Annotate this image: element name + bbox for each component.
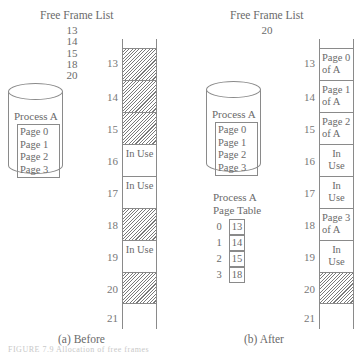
- process-page: Page 1: [20, 139, 57, 152]
- frame-number: 18: [295, 219, 315, 231]
- free-frame-entry: 14: [62, 36, 82, 47]
- frame-number: 13: [98, 57, 118, 69]
- page-table-frame: 15: [229, 251, 245, 267]
- frame-number: 19: [98, 251, 118, 263]
- process-name: Process A: [14, 110, 58, 122]
- page-table-index: 1: [214, 237, 224, 248]
- page-table-frame: 13: [229, 219, 245, 235]
- frame-number: 20: [98, 283, 118, 295]
- page-table-title-line2: Page Table: [213, 204, 261, 216]
- frame-number: 16: [98, 155, 118, 167]
- after-free-frame-list: 20: [257, 25, 277, 36]
- frame-number: 14: [98, 91, 118, 103]
- page-table-frame: 18: [229, 267, 245, 283]
- frame-14-free: [123, 80, 156, 112]
- process-pages: Page 0 Page 1 Page 2 Page 3: [215, 122, 258, 176]
- after-main-memory: Page 0of A Page 1of A Page 2of A InUse I…: [319, 39, 354, 329]
- frame-number: 14: [295, 91, 315, 103]
- before-free-frame-list: 13 14 15 18 20: [62, 25, 82, 81]
- page-table-frame: 14: [229, 235, 245, 251]
- frame-number: 17: [295, 187, 315, 199]
- process-page: Page 2: [20, 151, 57, 164]
- frame-13-free: [123, 48, 156, 80]
- frame-number: 18: [98, 219, 118, 231]
- process-pages: Page 0 Page 1 Page 2 Page 3: [17, 124, 60, 178]
- frame-number: 21: [98, 312, 118, 324]
- frame-19-in-use: In Use: [123, 240, 156, 272]
- after-free-frame-list-title: Free Frame List: [230, 9, 303, 21]
- process-page: Page 2: [218, 149, 255, 162]
- free-frame-entry: 20: [62, 70, 82, 81]
- frame-19-in-use: InUse: [320, 240, 353, 272]
- frame-18-free: [123, 208, 156, 240]
- process-page: Page 0: [218, 124, 255, 137]
- before-free-frame-list-title: Free Frame List: [40, 9, 113, 21]
- process-page: Page 3: [20, 164, 57, 177]
- frame-14-page-1-of-a: Page 1of A: [320, 80, 353, 112]
- page-table-index: 3: [214, 269, 224, 280]
- process-page: Page 1: [218, 137, 255, 150]
- free-frame-entry: 20: [257, 25, 277, 36]
- frame-number: 21: [295, 312, 315, 324]
- frame-number: 20: [295, 283, 315, 295]
- figure-caption-fragment: FIGURE 7.9 Allocation of free frames: [8, 344, 149, 356]
- process-page: Page 0: [20, 126, 57, 139]
- frame-15-free: [123, 112, 156, 144]
- before-process-a-disk: Process A Page 0 Page 1 Page 2 Page 3: [8, 83, 63, 175]
- frame-20-free: [123, 272, 156, 304]
- after-process-a-disk: Process A Page 0 Page 1 Page 2 Page 3: [206, 81, 261, 173]
- page-table-title-line1: Process A: [213, 191, 257, 203]
- page-table-index: 0: [214, 221, 224, 232]
- process-name: Process A: [212, 108, 256, 120]
- process-page: Page 3: [218, 162, 255, 175]
- frame-18-page-3-of-a: Page 3of A: [320, 208, 353, 240]
- before-main-memory: In Use In Use In Use: [122, 39, 157, 329]
- page-table-index: 2: [214, 253, 224, 264]
- frame-number: 16: [295, 155, 315, 167]
- frame-number: 15: [295, 123, 315, 135]
- frame-15-page-2-of-a: Page 2of A: [320, 112, 353, 144]
- frame-number: 17: [98, 187, 118, 199]
- after-caption: (b) After: [244, 333, 284, 345]
- frame-number: 13: [295, 57, 315, 69]
- frame-16-in-use: InUse: [320, 144, 353, 176]
- frame-16-in-use: In Use: [123, 144, 156, 176]
- frame-number: 15: [98, 123, 118, 135]
- frame-20-free: [320, 272, 353, 304]
- frame-17-in-use: In Use: [123, 176, 156, 208]
- frame-number: 19: [295, 251, 315, 263]
- cylinder-top: [8, 83, 63, 100]
- frame-17-in-use: InUse: [320, 176, 353, 208]
- frame-13-page-0-of-a: Page 0of A: [320, 48, 353, 80]
- cylinder-top: [206, 81, 261, 98]
